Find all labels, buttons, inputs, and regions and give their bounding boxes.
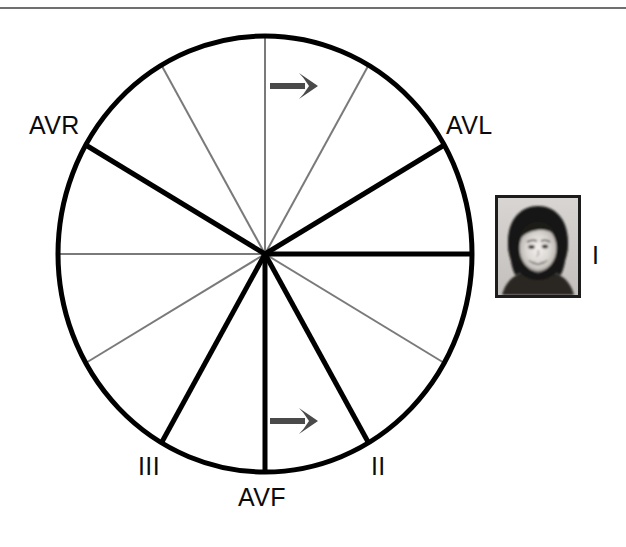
axis-label-lead-iii: III bbox=[138, 454, 160, 479]
axis-line-deg-60 bbox=[265, 65, 369, 254]
axis-line-iii bbox=[162, 254, 266, 443]
axis-line-deg30 bbox=[265, 254, 444, 363]
axis-line-deg150 bbox=[86, 254, 265, 363]
figure-root: AVR AVL III AVF II I bbox=[0, 0, 626, 547]
axis-line-deg-120 bbox=[162, 65, 266, 254]
lower-direction-arrow bbox=[270, 408, 318, 434]
axis-line-avr bbox=[86, 145, 265, 254]
axis-line-avl bbox=[265, 145, 444, 254]
axis-label-avr: AVR bbox=[29, 113, 80, 138]
patient-photo bbox=[495, 195, 581, 298]
axis-label-avf: AVF bbox=[238, 485, 286, 510]
portrait-illustration bbox=[498, 198, 578, 295]
axis-label-lead-ii: II bbox=[371, 454, 386, 479]
axis-line-ii bbox=[265, 254, 369, 443]
minor-axis-group bbox=[58, 36, 444, 363]
axis-label-avl: AVL bbox=[446, 113, 493, 138]
axis-label-lead-i: I bbox=[592, 243, 599, 268]
upper-direction-arrow bbox=[270, 73, 318, 99]
